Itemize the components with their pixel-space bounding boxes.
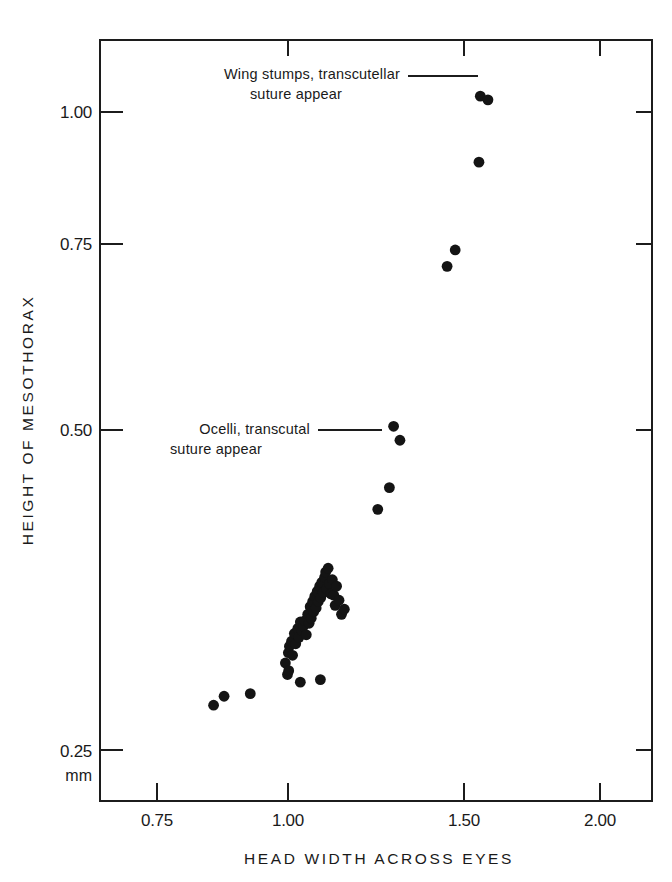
data-point bbox=[323, 563, 334, 574]
data-point bbox=[331, 581, 342, 592]
data-point-group bbox=[208, 91, 493, 711]
plot-frame bbox=[100, 40, 652, 801]
y-axis-unit-label: mm bbox=[65, 767, 92, 784]
x-tick-label-4: 2.00 bbox=[584, 811, 616, 830]
data-point bbox=[388, 421, 399, 432]
data-point bbox=[395, 435, 406, 446]
data-point bbox=[301, 629, 312, 640]
x-tick-label-3: 1.50 bbox=[448, 811, 480, 830]
annotation-ocelli-line2: suture appear bbox=[170, 441, 262, 457]
data-point bbox=[450, 245, 461, 256]
annotation-wing-stumps: Wing stumps, transcutellar suture appear bbox=[224, 66, 478, 102]
y-tick-label-4: 0.25 bbox=[60, 742, 92, 761]
scatter-plot-figure: 1.00 0.75 0.50 0.25 mm 0.75 1.00 1.50 2.… bbox=[0, 0, 672, 882]
y-axis-ticks bbox=[100, 112, 123, 750]
data-point bbox=[208, 700, 219, 711]
data-point bbox=[287, 650, 298, 661]
annotation-ocelli: Ocelli, transcutal suture appear bbox=[170, 421, 382, 457]
x-axis-ticks bbox=[157, 783, 600, 801]
y-tick-label-3: 0.50 bbox=[60, 421, 92, 440]
annotation-wing-stumps-line1: Wing stumps, transcutellar bbox=[224, 66, 400, 82]
data-point bbox=[442, 261, 453, 272]
y-tick-label-1: 1.00 bbox=[60, 103, 92, 122]
right-axis-ticks bbox=[636, 112, 652, 750]
data-point bbox=[339, 604, 350, 615]
annotation-ocelli-line1: Ocelli, transcutal bbox=[199, 421, 310, 437]
x-tick-label-1: 0.75 bbox=[141, 811, 173, 830]
data-point bbox=[315, 674, 326, 685]
annotation-wing-stumps-line2: suture appear bbox=[250, 86, 342, 102]
x-axis-title: HEAD WIDTH ACROSS EYES bbox=[244, 850, 514, 867]
data-point bbox=[474, 157, 485, 168]
plot-svg: 1.00 0.75 0.50 0.25 mm 0.75 1.00 1.50 2.… bbox=[0, 0, 672, 882]
data-point bbox=[219, 691, 230, 702]
data-point bbox=[295, 677, 306, 688]
data-point bbox=[483, 94, 494, 105]
y-tick-label-2: 0.75 bbox=[60, 235, 92, 254]
y-axis-title: HEIGHT OF MESOTHORAX bbox=[19, 295, 36, 546]
data-point bbox=[283, 665, 294, 676]
data-point bbox=[245, 688, 256, 699]
data-point bbox=[372, 504, 383, 515]
x-tick-label-2: 1.00 bbox=[272, 811, 304, 830]
data-point bbox=[384, 482, 395, 493]
top-axis-ticks bbox=[288, 40, 600, 56]
